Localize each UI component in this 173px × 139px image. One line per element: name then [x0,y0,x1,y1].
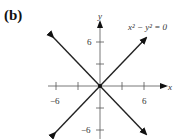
x-tick-label-neg6: −6 [50,96,60,106]
y-tick-label-neg6: −6 [81,125,91,135]
graph: y x 6 −6 −6 6 x² − y² = 0 [0,0,173,139]
x-tick-label-6: 6 [142,96,147,106]
x-axis-label: x [167,82,172,92]
origin-point [98,84,102,88]
y-tick-label-6: 6 [87,37,92,47]
y-axis-label: y [97,11,102,21]
equation-label: x² − y² = 0 [127,22,168,32]
